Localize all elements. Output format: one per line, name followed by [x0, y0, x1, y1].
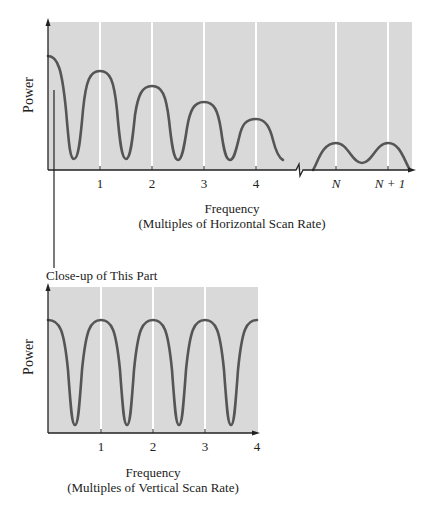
top-plot-background [48, 22, 412, 170]
diagram-canvas [0, 0, 431, 508]
top-tick-3: 3 [201, 176, 208, 192]
top-tick-1: 1 [97, 176, 104, 192]
top-tick-4: 4 [253, 176, 260, 192]
top-tick-n: N [332, 176, 341, 192]
bottom-tick-3: 3 [202, 439, 209, 455]
top-tick-n-plus-1: N + 1 [375, 176, 405, 192]
closeup-callout-label: Close-up of This Part [46, 268, 157, 284]
top-x-axis-sublabel: (Multiples of Horizontal Scan Rate) [138, 216, 325, 231]
top-x-axis-label: Frequency [205, 201, 260, 216]
bottom-x-axis-label: Frequency [126, 465, 181, 480]
top-tick-2: 2 [149, 176, 156, 192]
bottom-tick-1: 1 [98, 439, 105, 455]
bottom-tick-4: 4 [254, 439, 261, 455]
top-y-axis-label: Power [21, 72, 37, 118]
bottom-tick-2: 2 [150, 439, 157, 455]
bottom-y-axis-label: Power [21, 334, 37, 380]
bottom-x-axis-sublabel: (Multiples of Vertical Scan Rate) [67, 480, 239, 495]
